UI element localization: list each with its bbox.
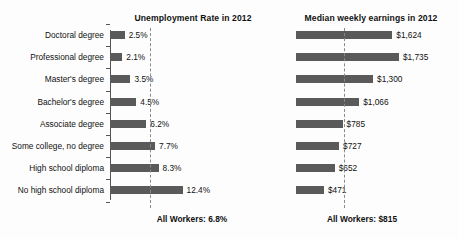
bar xyxy=(296,75,373,83)
bar-value-label: 8.3% xyxy=(163,164,182,172)
left-chart-all-workers-note: All Workers: 6.8% xyxy=(132,214,252,224)
bar xyxy=(110,142,155,150)
bar xyxy=(296,98,359,106)
category-axis-labels: Doctoral degreeProfessional degreeMaster… xyxy=(0,0,104,239)
bar-value-label: $1,300 xyxy=(377,75,402,83)
bar-value-label: 6.2% xyxy=(150,120,169,128)
y-axis-tick xyxy=(106,46,110,47)
bar-value-label: 2.1% xyxy=(126,53,145,61)
bar xyxy=(110,186,183,194)
right-chart-plot-area: $1,624$1,735$1,300$1,066$785$727$652$471 xyxy=(296,0,459,239)
bar xyxy=(110,120,146,128)
category-label: Professional degree xyxy=(4,52,104,62)
category-label: Some college, no degree xyxy=(4,141,104,151)
y-axis-tick xyxy=(106,24,110,25)
right-chart-reference-line xyxy=(344,28,345,208)
bar xyxy=(296,164,335,172)
bar xyxy=(110,31,125,39)
y-axis-tick xyxy=(106,202,110,203)
bar xyxy=(296,142,339,150)
category-label: Master's degree xyxy=(4,74,104,84)
category-label: High school diploma xyxy=(4,163,104,173)
y-axis-tick xyxy=(106,113,110,114)
bar xyxy=(110,53,122,61)
category-label: No high school diploma xyxy=(4,185,104,195)
right-chart-all-workers-note: All Workers: $815 xyxy=(302,214,422,224)
y-axis-tick xyxy=(106,68,110,69)
left-chart-reference-line xyxy=(150,28,151,208)
left-chart-plot-area: 2.5%2.1%3.5%4.5%6.2%7.7%8.3%12.4% xyxy=(110,0,290,239)
bar xyxy=(296,186,324,194)
bar-value-label: $652 xyxy=(339,164,357,172)
bar xyxy=(296,120,343,128)
category-label: Associate degree xyxy=(4,119,104,129)
category-label: Doctoral degree xyxy=(4,30,104,40)
bar-value-label: $1,624 xyxy=(396,31,421,39)
y-axis-tick xyxy=(106,157,110,158)
bar-value-label: 7.7% xyxy=(159,142,178,150)
y-axis-tick xyxy=(106,91,110,92)
bar-value-label: $1,066 xyxy=(363,98,388,106)
bar-value-label: 2.5% xyxy=(129,31,148,39)
bar-value-label: 12.4% xyxy=(187,186,211,194)
bar xyxy=(110,98,136,106)
bar-value-label: $727 xyxy=(343,142,361,150)
bar xyxy=(110,164,159,172)
bar-value-label: $785 xyxy=(347,120,365,128)
bar xyxy=(296,53,399,61)
bar-value-label: $1,735 xyxy=(403,53,428,61)
dual-bar-chart: Unemployment Rate in 2012 Median weekly … xyxy=(0,0,459,239)
category-label: Bachelor's degree xyxy=(4,97,104,107)
y-axis-tick xyxy=(106,179,110,180)
bar xyxy=(110,75,130,83)
y-axis-tick xyxy=(106,135,110,136)
